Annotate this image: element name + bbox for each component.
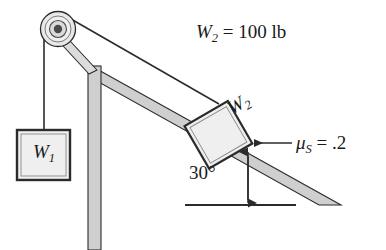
post-column <box>88 66 101 250</box>
pulley-axle <box>54 25 62 33</box>
physics-diagram-inclined-plane: W2 = 100 lb μS = .2 30° W1 W2 <box>0 0 386 250</box>
mu-symbol: μ <box>296 132 306 153</box>
label-w2-weight-symbol: W <box>196 21 212 42</box>
pulley <box>41 12 76 47</box>
label-incline-angle: 30° <box>189 163 216 182</box>
support-post <box>88 66 101 250</box>
label-block-w1: W1 <box>33 142 55 164</box>
diagram-canvas <box>0 0 386 250</box>
label-block-w1-symbol: W <box>33 141 49 162</box>
label-w2-weight-rest: = 100 lb <box>218 21 286 42</box>
label-static-friction-coefficient: μS = .2 <box>296 133 346 155</box>
mu-rest: = .2 <box>312 132 346 153</box>
label-w2-weight-value: W2 = 100 lb <box>196 22 286 44</box>
label-block-w1-subscript: 1 <box>49 151 55 165</box>
